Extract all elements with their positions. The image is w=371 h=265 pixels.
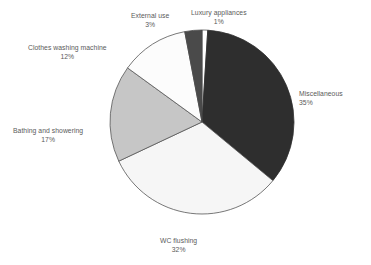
pie-slice-label-value: 35%: [299, 99, 343, 108]
pie-chart: Luxury appliances1%Miscellaneous35%WC fl…: [0, 0, 371, 265]
pie-slice-label-value: 32%: [160, 246, 197, 255]
pie-slice-label-name: External use: [131, 12, 169, 21]
pie-slice-label-name: Clothes washing machine: [28, 44, 107, 53]
pie-slice-label-name: Luxury appliances: [191, 9, 247, 18]
pie-slice-label: Luxury appliances1%: [191, 9, 247, 26]
pie-slice-label-value: 12%: [28, 53, 107, 62]
pie-slice-label-value: 17%: [13, 136, 83, 145]
pie-slice-label: Bathing and showering17%: [13, 127, 83, 144]
pie-slice-label-value: 1%: [191, 18, 247, 27]
pie-slice-label: WC flushing32%: [160, 237, 197, 254]
pie-slice-label-name: WC flushing: [160, 237, 197, 246]
pie-slice-label: Miscellaneous35%: [299, 90, 343, 107]
pie-slice-label-name: Miscellaneous: [299, 90, 343, 99]
pie-slice-label-value: 3%: [131, 21, 169, 30]
pie-slice-label: Clothes washing machine12%: [28, 44, 107, 61]
pie-slice-label-name: Bathing and showering: [13, 127, 83, 136]
pie-slice-label: External use3%: [131, 12, 169, 29]
